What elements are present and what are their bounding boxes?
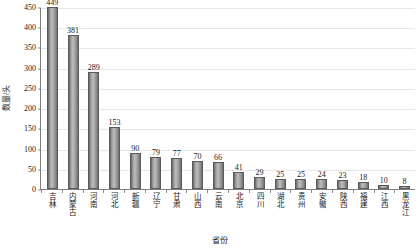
x-label-slot: 甘肃 — [166, 192, 187, 232]
bar-slot: 18 — [353, 8, 374, 189]
y-tick-label: 350 — [24, 44, 36, 52]
bar[interactable]: 90 — [130, 153, 141, 189]
bar[interactable]: 153 — [109, 127, 120, 189]
bar-value-label: 8 — [403, 178, 407, 186]
x-tick-label: 河北 — [110, 192, 118, 232]
bar-slot: 153 — [104, 8, 125, 189]
bar-chart: 数量/头 050100150200250300350400450 4493812… — [0, 0, 419, 249]
y-tick-label: 0 — [32, 186, 36, 194]
bar-slot: 8 — [394, 8, 415, 189]
y-tick-label: 450 — [24, 4, 36, 12]
x-tick-mark — [290, 190, 291, 193]
x-label-slot: 吉林 — [41, 192, 62, 232]
bar-value-label: 66 — [214, 154, 222, 162]
y-tick-label: 300 — [24, 65, 36, 73]
bar-slot: 25 — [270, 8, 291, 189]
x-tick-label: 吉林 — [48, 192, 56, 232]
bar-slot: 289 — [83, 8, 104, 189]
x-tick-label: 四川 — [255, 192, 263, 232]
x-tick-label: 安徽 — [318, 192, 326, 232]
bar[interactable]: 70 — [192, 161, 203, 189]
x-label-slot: 四川 — [249, 192, 270, 232]
x-tick-mark — [83, 190, 84, 193]
bar-value-label: 41 — [235, 164, 243, 172]
x-tick-label: 湖北 — [276, 192, 284, 232]
x-tick-mark — [228, 190, 229, 193]
x-label-slot: 内蒙古 — [62, 192, 83, 232]
bar[interactable]: 29 — [254, 177, 265, 189]
x-tick-mark — [166, 190, 167, 193]
x-tick-label: 陕西 — [339, 192, 347, 232]
x-tick-label: 河南 — [89, 192, 97, 232]
y-axis-title: 数量/头 — [0, 0, 14, 195]
bar[interactable]: 8 — [399, 186, 410, 189]
bar[interactable]: 41 — [233, 172, 244, 189]
x-tick-label: 黑龙江 — [401, 192, 409, 232]
x-tick-label: 甘肃 — [172, 192, 180, 232]
x-label-slot: 陕西 — [332, 192, 353, 232]
y-tick-label: 100 — [24, 146, 36, 154]
bar[interactable]: 10 — [378, 185, 389, 189]
x-label-slot: 辽宁 — [145, 192, 166, 232]
y-tick-label: 250 — [24, 85, 36, 93]
y-tick-label: 400 — [24, 24, 36, 32]
bar[interactable]: 66 — [213, 162, 224, 189]
y-tick-label: 150 — [24, 125, 36, 133]
x-label-slot: 安徽 — [311, 192, 332, 232]
bar-slot: 41 — [228, 8, 249, 189]
bar-value-label: 23 — [338, 172, 346, 180]
x-tick-label: 北京 — [235, 192, 243, 232]
bar-slot: 10 — [374, 8, 395, 189]
x-tick-mark — [249, 190, 250, 193]
bar[interactable]: 79 — [150, 157, 161, 189]
bar[interactable]: 449 — [47, 7, 58, 189]
x-axis-tick-labels: 吉林内蒙古河南河北新疆辽宁甘肃山西云南北京四川湖北贵州安徽陕西福建江西黑龙江 — [41, 192, 415, 232]
x-tick-mark — [124, 190, 125, 193]
x-tick-mark — [145, 190, 146, 193]
x-tick-label: 江西 — [380, 192, 388, 232]
x-label-slot: 贵州 — [290, 192, 311, 232]
bar-value-label: 70 — [193, 153, 201, 161]
x-axis-title: 省份 — [0, 234, 419, 245]
bar-slot: 24 — [311, 8, 332, 189]
y-tick-label: 200 — [24, 105, 36, 113]
bar-slot: 381 — [63, 8, 84, 189]
x-tick-label: 辽宁 — [151, 192, 159, 232]
bar-value-label: 29 — [256, 169, 264, 177]
bar[interactable]: 289 — [88, 72, 99, 189]
x-tick-mark — [353, 190, 354, 193]
bar-value-label: 18 — [359, 174, 367, 182]
bar[interactable]: 25 — [295, 179, 306, 189]
x-tick-label: 福建 — [359, 192, 367, 232]
x-tick-label: 山西 — [193, 192, 201, 232]
bar[interactable]: 381 — [68, 35, 79, 189]
bar[interactable]: 18 — [358, 182, 369, 189]
x-label-slot: 云南 — [207, 192, 228, 232]
bar[interactable]: 24 — [316, 179, 327, 189]
x-label-slot: 山西 — [186, 192, 207, 232]
bar-series: 449381289153907977706641292525242318108 — [42, 8, 415, 189]
bar-slot: 23 — [332, 8, 353, 189]
x-tick-mark — [62, 190, 63, 193]
bar-value-label: 289 — [88, 64, 100, 72]
bar-slot: 66 — [208, 8, 229, 189]
bar[interactable]: 77 — [171, 158, 182, 189]
bar-value-label: 25 — [297, 171, 305, 179]
plot-area: 449381289153907977706641292525242318108 — [40, 8, 415, 190]
bar-value-label: 24 — [318, 171, 326, 179]
bar[interactable]: 23 — [337, 180, 348, 189]
x-tick-mark — [374, 190, 375, 193]
x-tick-mark — [103, 190, 104, 193]
bar-value-label: 79 — [152, 149, 160, 157]
x-label-slot: 河南 — [83, 192, 104, 232]
bar-value-label: 153 — [109, 119, 121, 127]
x-label-slot: 黑龙江 — [394, 192, 415, 232]
x-label-slot: 江西 — [374, 192, 395, 232]
x-tick-mark — [41, 190, 42, 193]
x-tick-label: 新疆 — [131, 192, 139, 232]
x-tick-mark — [270, 190, 271, 193]
x-tick-label: 内蒙古 — [68, 192, 76, 232]
bar-slot: 25 — [291, 8, 312, 189]
bar-value-label: 449 — [46, 0, 58, 7]
bar[interactable]: 25 — [275, 179, 286, 189]
